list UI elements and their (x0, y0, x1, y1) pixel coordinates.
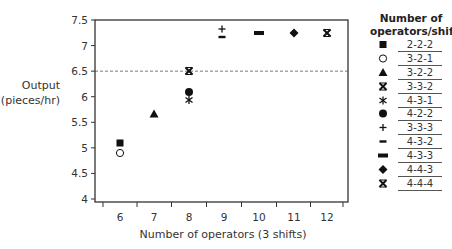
legend-label: 3-3-2 (398, 80, 442, 94)
legend-item: 3-2-2 (370, 66, 452, 80)
legend-marker-4-3-2-icon (380, 141, 387, 143)
x-tick-label: 11 (287, 211, 300, 223)
legend-item: 3-3-2 (370, 80, 452, 94)
x-tick-label: 12 (320, 211, 333, 223)
legend-marker-icon (376, 177, 390, 190)
x-tick-label: 6 (117, 211, 124, 223)
legend-marker-icon (376, 163, 390, 176)
legend-label: 3-2-2 (398, 66, 442, 80)
data-point-3-2-1 (116, 149, 123, 156)
data-point-3-3-3 (219, 26, 226, 33)
legend-marker-icon (376, 38, 390, 51)
data-point-4-3-2 (219, 36, 226, 38)
y-tick-label: 6 (81, 91, 88, 103)
legend-item: 4-4-3 (370, 163, 452, 177)
legend-label: 2-2-2 (398, 38, 442, 52)
legend-label: 4-3-3 (398, 149, 442, 163)
data-point-4-4-3 (290, 29, 299, 38)
legend-item: 3-3-3 (370, 121, 452, 135)
legend-marker-icon (376, 135, 390, 148)
legend-title-line-2: operators/shift (370, 25, 452, 38)
legend-marker-4-4-3-icon (379, 165, 388, 174)
y-tick-label: 4 (81, 193, 88, 205)
legend-item: 4-3-3 (370, 149, 452, 163)
x-axis-label: Number of operators (3 shifts) (140, 228, 307, 241)
legend-marker-4-2-2-icon (379, 110, 387, 118)
legend-marker-icon (376, 52, 390, 65)
legend-title: Number of operators/shift (370, 12, 452, 38)
legend-label: 3-2-1 (398, 52, 442, 66)
data-point-4-3-1 (186, 96, 193, 104)
legend-marker-icon (376, 107, 390, 120)
y-axis-label: Output (22, 79, 61, 92)
legend: Number of operators/shift 2-2-23-2-13-2-… (370, 12, 452, 191)
legend-item: 4-3-1 (370, 94, 452, 108)
legend-item: 3-2-1 (370, 52, 452, 66)
legend-entries: 2-2-23-2-13-2-23-3-24-3-14-2-23-3-34-3-2… (370, 38, 452, 191)
legend-marker-4-4-4-icon (380, 180, 387, 187)
y-tick-label: 7 (81, 40, 88, 52)
legend-marker-2-2-2-icon (380, 41, 387, 48)
legend-item: 4-4-4 (370, 177, 452, 191)
legend-label: 4-3-1 (398, 94, 442, 108)
legend-label: 3-3-3 (398, 121, 442, 135)
legend-label: 4-4-3 (398, 163, 442, 177)
legend-title-line-1: Number of (370, 12, 452, 25)
x-tick-label: 7 (151, 211, 158, 223)
legend-label: 4-4-4 (398, 177, 442, 191)
data-point-4-3-3 (254, 31, 264, 35)
legend-label: 4-3-2 (398, 135, 442, 149)
y-tick-label: 6.5 (71, 65, 88, 77)
legend-marker-4-3-3-icon (378, 154, 388, 158)
legend-marker-3-2-1-icon (379, 55, 386, 62)
legend-marker-icon (376, 94, 390, 107)
data-point-4-2-2 (185, 88, 193, 96)
data-point-4-4-4 (324, 30, 331, 37)
plot-area (95, 20, 348, 202)
legend-item: 2-2-2 (370, 38, 452, 52)
x-tick-label: 9 (221, 211, 228, 223)
legend-marker-icon (376, 121, 390, 134)
y-tick-label: 7.5 (71, 14, 88, 26)
legend-marker-3-3-2-icon (380, 83, 387, 90)
legend-marker-4-3-1-icon (380, 96, 387, 104)
x-tick-label: 8 (186, 211, 193, 223)
x-tick-label: 10 (252, 211, 265, 223)
y-axis-label: (pieces/hr) (1, 94, 60, 107)
legend-marker-icon (376, 80, 390, 93)
y-tick-label: 5.5 (71, 116, 88, 128)
legend-label: 4-2-2 (398, 107, 442, 121)
data-point-2-2-2 (117, 140, 124, 147)
legend-item: 4-3-2 (370, 135, 452, 149)
y-tick-label: 4.5 (71, 167, 88, 179)
legend-marker-3-3-3-icon (380, 124, 387, 131)
legend-marker-icon (376, 66, 390, 79)
legend-marker-icon (376, 149, 390, 162)
legend-marker-3-2-2-icon (379, 68, 388, 76)
data-point-3-2-2 (150, 110, 159, 118)
y-tick-label: 5 (81, 142, 88, 154)
legend-item: 4-2-2 (370, 107, 452, 121)
